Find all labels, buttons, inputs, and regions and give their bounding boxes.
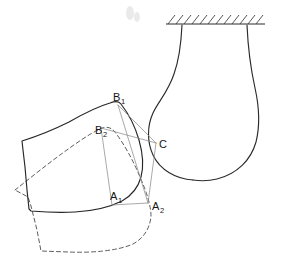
label-c-base: C [159, 138, 167, 150]
support-outline-right [193, 25, 259, 181]
scan-artifact-smudge [126, 6, 140, 22]
label-a2-base: A [152, 200, 160, 212]
ceiling-hatching [168, 15, 263, 24]
point-labels-group: B 1 B 2 C A 1 A 2 [95, 91, 167, 215]
label-a1-base: A [110, 190, 118, 202]
label-b2-base: B [95, 124, 102, 136]
label-a1-subscript: 1 [118, 196, 122, 205]
label-a2: A 2 [152, 200, 164, 215]
support-outline-left [149, 25, 194, 180]
label-a2-subscript: 2 [160, 206, 164, 215]
label-b2-subscript: 2 [103, 130, 107, 139]
label-c: C [159, 138, 167, 150]
construction-line-b2-c [101, 128, 156, 143]
figure-root: B 1 B 2 C A 1 A 2 [0, 0, 286, 264]
ceiling-ground-symbol [166, 15, 265, 24]
label-b1-base: B [113, 91, 120, 103]
technical-diagram-svg: B 1 B 2 C A 1 A 2 [0, 0, 286, 264]
label-b2: B 2 [95, 124, 107, 139]
label-b1-subscript: 1 [121, 97, 125, 106]
label-b1: B 1 [113, 91, 125, 106]
rigid-body-position-1-solid [22, 102, 143, 213]
support-body-bulb [149, 25, 259, 181]
solid-body-outline [22, 102, 143, 213]
